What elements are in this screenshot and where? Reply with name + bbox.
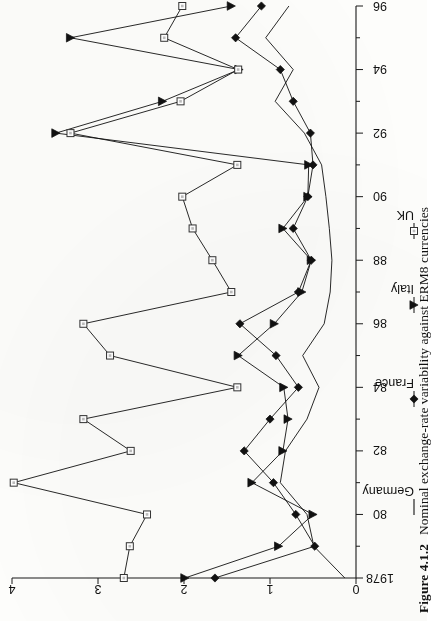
time-tick-label-88: 88 [373,253,387,267]
figure-caption-label: Figure 4.1.2 [416,544,431,613]
value-tick-label-2: 2 [180,582,187,596]
time-tick-label-92: 92 [373,126,387,140]
datapoint-uk-1996-core [181,5,184,8]
value-tick-label-3: 3 [94,582,101,596]
datapoint-italy-1980 [309,510,317,519]
datapoint-italy-1992 [52,129,60,138]
datapoint-italy-1993 [158,97,166,106]
datapoint-italy-1995 [66,33,74,42]
datapoint-italy-1982 [279,447,287,456]
time-tick-label-82: 82 [373,443,387,457]
series-line-italy [56,6,313,578]
time-tick-label-86: 86 [373,316,387,330]
datapoint-uk-1984-core [236,386,239,389]
datapoint-uk-1981-core [12,481,15,484]
datapoint-uk-1994-core [237,68,240,71]
datapoint-france-1980 [292,510,300,518]
datapoint-uk-1983-core [82,418,85,421]
datapoint-france-1992 [306,129,314,137]
datapoint-uk-1990-core [181,195,184,198]
datapoint-uk-1980-core [146,513,149,516]
datapoint-uk-1985-core [109,354,112,357]
series-line-uk [14,6,238,578]
value-tick-label-4: 4 [8,582,15,596]
time-tick-label-90: 90 [373,189,387,203]
datapoint-italy-1978 [181,574,189,583]
time-tick-label-94: 94 [373,62,387,76]
datapoint-uk-1987-core [230,291,233,294]
figure-caption: Figure 4.1.2Nominal exchange-rate variab… [416,207,432,613]
datapoint-italy-1996 [227,2,235,11]
datapoint-uk-1991-core [236,164,239,167]
figure-caption-text: Nominal exchange-rate variability agains… [416,207,431,535]
datapoint-uk-1995-core [163,36,166,39]
datapoint-uk-1982-core [129,450,132,453]
datapoint-uk-1986-core [82,322,85,325]
value-tick-label-0: 0 [352,582,359,596]
figure-caption-container: Figure 4.1.2Nominal exchange-rate variab… [395,0,425,621]
time-tick-label-96: 96 [373,0,387,13]
datapoint-uk-1989-core [191,227,194,230]
datapoint-france-1978 [211,574,219,582]
datapoint-france-1993 [289,97,297,105]
datapoint-france-1979 [311,542,319,550]
datapoint-france-1989 [289,224,297,232]
datapoint-uk-1979-core [129,545,132,548]
datapoint-uk-1978-core [123,577,126,580]
value-tick-label-1: 1 [266,582,273,596]
datapoint-italy-1987 [298,288,306,297]
datapoint-uk-1988-core [211,259,214,262]
datapoint-uk-1992-core [69,132,72,135]
datapoint-uk-1993-core [179,100,182,103]
datapoint-france-1994 [276,65,284,73]
time-tick-label-80: 80 [373,507,387,521]
time-tick-label-1978: 1978 [366,571,394,585]
